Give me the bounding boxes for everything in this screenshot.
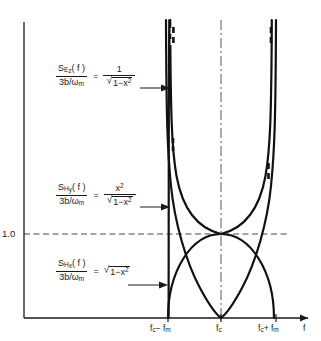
formula-shy-rhs-denominator: √1−x2 [104,194,136,207]
formula-shx-lhs: SHx( f ) 3b/ωm [55,259,88,283]
leader-line-formula2 [140,204,170,211]
spectral-density-figure [0,0,321,341]
x-tick-label-fc: fc [216,323,222,333]
curve-sez-left-branch [170,20,221,234]
formula-shy-numerator: SHy( f ) [55,183,88,195]
formula-sez-rhs-denominator: √1−x2 [103,75,135,88]
formula-shy-rhs: x2 √1−x2 [104,183,136,207]
formula-shx-equals: = [93,267,98,276]
radical-shy: √1−x2 [107,196,133,207]
formula-shy-lhs: SHy( f ) 3b/ωm [55,183,88,207]
formula-shx: SHx( f ) 3b/ωm = √1−x2 [55,259,130,283]
radical-sez: √1−x2 [106,77,132,88]
leader-line-formula3 [128,282,168,289]
formula-sez-rhs-numerator: 1 [114,65,125,75]
x-axis-arrowhead [300,315,308,322]
formula-sez-equals: = [93,72,98,81]
x-tick-label-fc-plus-fm: fc+ fm [258,323,279,333]
formula-sez-numerator: SEz( f ) [55,64,88,76]
formula-sez-denominator: 3b/ωm [56,76,87,88]
x-tick-label-fc-minus-fm: fc− fm [150,323,171,333]
y-tick-label-one: 1.0 [2,228,15,239]
curve-shy-x2-over-sqrt-left [166,20,221,318]
formula-shy-rhs-numerator: x2 [113,183,127,194]
formula-shy-denominator: 3b/ωm [56,195,87,207]
formula-shx-numerator: SHx( f ) [55,259,88,271]
formula-shy: SHy( f ) 3b/ωm = x2 √1−x2 [55,183,136,207]
formula-sez-rhs: 1 √1−x2 [103,65,135,88]
curve-sez-right-branch [221,20,272,234]
formula-shy-equals: = [93,191,98,200]
radical-shx: √1−x2 [104,266,130,277]
formula-sez-lhs: SEz( f ) 3b/ωm [55,64,88,88]
formula-sez: SEz( f ) 3b/ωm = 1 √1−x2 [55,64,135,88]
formula-shx-denominator: 3b/ωm [56,271,87,283]
x-axis-label: f [303,323,305,333]
